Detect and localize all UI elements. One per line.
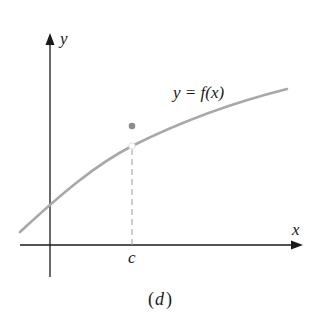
caption-close: ) bbox=[166, 289, 172, 310]
y-axis-label: y bbox=[58, 29, 68, 48]
graph-canvas: y x c y = f(x) ( d ) bbox=[0, 0, 311, 330]
x-axis-arrow-icon bbox=[291, 241, 303, 250]
figure-d: y x c y = f(x) ( d ) bbox=[0, 0, 311, 330]
filled-dot-icon bbox=[129, 123, 136, 130]
caption-letter: d bbox=[155, 289, 165, 309]
x-axis-label: x bbox=[291, 220, 300, 239]
open-circle-icon bbox=[129, 143, 135, 149]
caption-open: ( bbox=[148, 289, 154, 310]
curve-label: y = f(x) bbox=[171, 83, 224, 102]
c-label: c bbox=[128, 248, 136, 267]
y-axis-arrow-icon bbox=[46, 33, 55, 45]
curve-f bbox=[20, 89, 287, 232]
